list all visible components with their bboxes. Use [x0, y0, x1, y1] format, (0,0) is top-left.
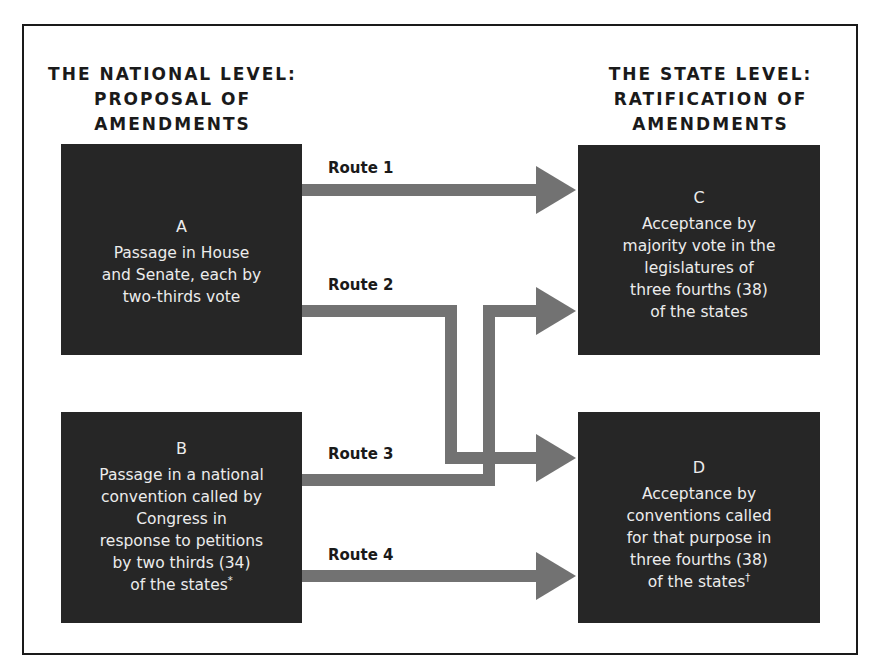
route-2-label: Route 2 [328, 276, 394, 294]
box-text-line: response to petitions [99, 530, 263, 552]
heading-line: AMENDMENTS [30, 112, 315, 137]
heading-line: THE NATIONAL LEVEL: [30, 62, 315, 87]
box-letter: C [623, 187, 776, 209]
box-d-content: D Acceptance by conventions called for t… [626, 457, 771, 593]
box-text-line: majority vote in the [623, 235, 776, 257]
box-text-line: of the states [623, 301, 776, 323]
box-d-state-conventions: D Acceptance by conventions called for t… [578, 412, 820, 623]
box-text-line: conventions called [626, 505, 771, 527]
heading-line: PROPOSAL OF [30, 87, 315, 112]
box-text: of the states [130, 576, 228, 594]
box-text-line: convention called by [99, 486, 263, 508]
box-text-line: Passage in House [102, 242, 262, 264]
box-b-national-convention: B Passage in a national convention calle… [61, 412, 302, 623]
box-text-line: and Senate, each by [102, 264, 262, 286]
box-c-content: C Acceptance by majority vote in the leg… [623, 187, 776, 323]
box-text-line: Passage in a national [99, 464, 263, 486]
box-a-house-senate: A Passage in House and Senate, each by t… [61, 144, 302, 355]
box-text-line: three fourths (38) [626, 549, 771, 571]
box-letter: A [102, 216, 262, 238]
heading-state-level: THE STATE LEVEL: RATIFICATION OF AMENDME… [568, 62, 853, 137]
heading-line: THE STATE LEVEL: [568, 62, 853, 87]
box-text-line: three fourths (38) [623, 279, 776, 301]
footnote-asterisk: * [228, 574, 233, 585]
route-4-label: Route 4 [328, 546, 394, 564]
box-text-line: legislatures of [623, 257, 776, 279]
box-text-line: two-thirds vote [102, 286, 262, 308]
route-1-label: Route 1 [328, 159, 394, 177]
box-text-line: Acceptance by [623, 213, 776, 235]
box-letter: B [99, 438, 263, 460]
heading-line: RATIFICATION OF [568, 87, 853, 112]
box-text: of the states [648, 573, 746, 591]
box-text-line: Congress in [99, 508, 263, 530]
box-text-line: of the states* [99, 574, 263, 596]
heading-national-level: THE NATIONAL LEVEL: PROPOSAL OF AMENDMEN… [30, 62, 315, 137]
box-letter: D [626, 457, 771, 479]
footnote-dagger: † [745, 571, 750, 582]
box-text-line: by two thirds (34) [99, 552, 263, 574]
box-a-content: A Passage in House and Senate, each by t… [102, 216, 262, 308]
box-b-content: B Passage in a national convention calle… [99, 438, 263, 596]
heading-line: AMENDMENTS [568, 112, 853, 137]
box-text-line: Acceptance by [626, 483, 771, 505]
route-3-label: Route 3 [328, 445, 394, 463]
box-text-line: of the states† [626, 571, 771, 593]
cropped-figure-title [18, 0, 238, 2]
box-text-line: for that purpose in [626, 527, 771, 549]
box-c-state-legislatures: C Acceptance by majority vote in the leg… [578, 145, 820, 355]
